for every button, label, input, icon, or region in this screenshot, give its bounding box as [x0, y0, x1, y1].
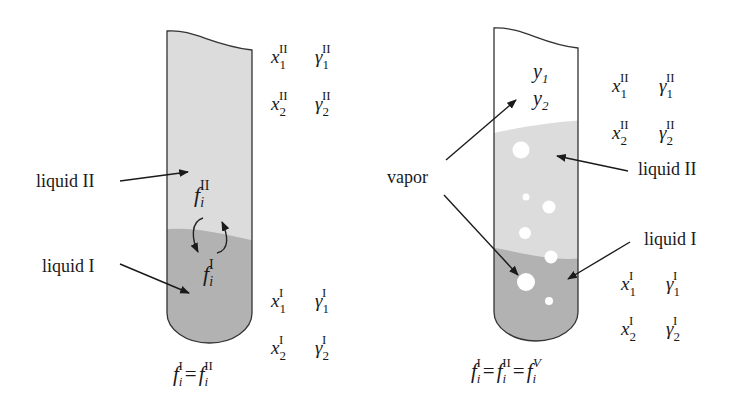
two-phase-equilibrium-diagram: fiII fiI liquid II liquid I x1II γ1II x2…	[0, 0, 743, 405]
svg-text:x1I: x1I	[270, 285, 286, 316]
right-phase-II-variables: x1II γ1II x2II γ2II	[611, 70, 675, 148]
right-liquid-I-label: liquid I	[644, 229, 697, 249]
svg-text:x2II: x2II	[611, 117, 629, 148]
liquid-I-region	[160, 229, 260, 360]
svg-text:x1II: x1II	[270, 41, 288, 72]
liquid-I-region	[485, 246, 585, 360]
svg-text:x1I: x1I	[620, 268, 636, 299]
right-equilibrium-equation: fiI=fiII=fiV	[471, 355, 543, 386]
svg-text:γ1I: γ1I	[315, 285, 329, 316]
vapor-label: vapor	[387, 167, 428, 187]
left-test-tube	[160, 20, 260, 360]
svg-text:γ1II: γ1II	[315, 41, 331, 72]
svg-text:γ1I: γ1I	[666, 268, 680, 299]
svg-text:x2I: x2I	[270, 332, 286, 363]
svg-text:x1II: x1II	[611, 70, 629, 101]
svg-text:x2I: x2I	[620, 313, 636, 344]
right-phase-I-variables: x1I γ1I x2I γ2I	[620, 268, 680, 344]
left-liquid-II-label: liquid II	[36, 171, 95, 191]
svg-text:γ2I: γ2I	[666, 313, 680, 344]
left-phase-I-variables: x1I γ1I x2I γ2I	[270, 285, 329, 363]
svg-text:x2II: x2II	[270, 88, 288, 119]
left-phase-II-variables: x1II γ1II x2II γ2II	[270, 41, 331, 119]
svg-text:γ2II: γ2II	[315, 88, 331, 119]
svg-text:γ2I: γ2I	[315, 332, 329, 363]
left-equilibrium-equation: fiI=fiII	[173, 358, 213, 389]
svg-text:γ1II: γ1II	[659, 70, 675, 101]
left-liquid-I-label: liquid I	[42, 256, 95, 276]
svg-text:γ2II: γ2II	[659, 117, 675, 148]
right-liquid-II-label: liquid II	[638, 159, 697, 179]
